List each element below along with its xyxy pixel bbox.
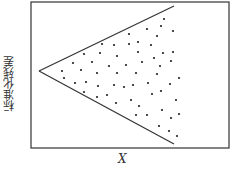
data-point [80, 69, 82, 71]
data-point [146, 114, 148, 116]
data-point [135, 72, 137, 74]
data-point [128, 43, 130, 45]
data-point [178, 113, 180, 115]
data-point [135, 114, 137, 116]
data-point [116, 55, 118, 57]
data-point [74, 82, 76, 84]
data-point [146, 28, 148, 30]
data-point [176, 135, 178, 137]
data-point [170, 60, 172, 62]
data-point [160, 90, 162, 92]
data-point [108, 65, 110, 67]
data-point [172, 51, 174, 53]
data-point [96, 96, 98, 98]
data-point [116, 72, 118, 74]
data-point [141, 61, 143, 63]
data-point [128, 33, 130, 35]
data-point [83, 91, 85, 93]
data-point [168, 130, 170, 132]
data-point [63, 77, 65, 79]
data-point [125, 64, 127, 66]
plot-frame [31, 2, 229, 148]
data-point [161, 109, 163, 111]
data-point [91, 61, 93, 63]
x-axis-label: X [118, 152, 127, 166]
data-point [163, 18, 165, 20]
data-point [137, 41, 139, 43]
data-point [175, 99, 177, 101]
data-point [83, 53, 85, 55]
data-point [113, 84, 115, 86]
data-point [123, 86, 125, 88]
data-point [72, 62, 74, 64]
data-point [151, 93, 153, 95]
data-point [158, 125, 160, 127]
data-point [97, 85, 99, 87]
y-axis-label: 标准化残差 [4, 56, 18, 111]
data-point [150, 44, 152, 46]
data-point [115, 102, 117, 104]
data-point [138, 105, 140, 107]
data-point [147, 82, 149, 84]
data-point [130, 99, 132, 101]
data-point [160, 25, 162, 27]
data-point [137, 51, 139, 53]
data-point [132, 84, 134, 86]
data-point [170, 117, 172, 119]
data-point [61, 70, 63, 72]
data-point [178, 77, 180, 79]
data-point [159, 65, 161, 67]
data-point [153, 57, 155, 59]
envelope-lines [39, 6, 174, 144]
data-point [162, 52, 164, 54]
data-point [106, 94, 108, 96]
data-point [172, 30, 174, 32]
funnel-scatter-plot [0, 0, 231, 171]
data-point [156, 73, 158, 75]
residual-points [61, 18, 180, 137]
data-point [156, 35, 158, 37]
data-point [96, 72, 98, 74]
envelope-line-lower [39, 71, 174, 144]
data-point [169, 83, 171, 85]
data-point [113, 44, 115, 46]
data-point [101, 43, 103, 45]
data-point [99, 52, 101, 54]
data-point [85, 81, 87, 83]
envelope-line-upper [39, 6, 174, 71]
